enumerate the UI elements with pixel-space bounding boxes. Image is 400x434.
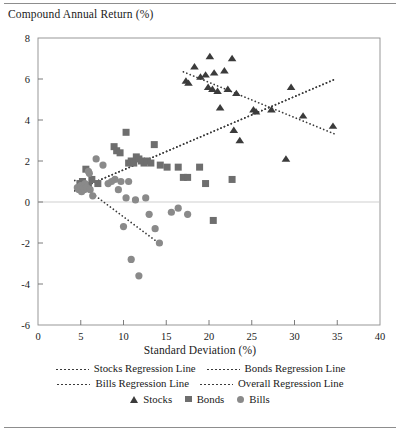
data-point-bonds	[94, 180, 101, 187]
svg-text:35: 35	[332, 331, 343, 342]
dotted-line-icon	[55, 367, 89, 370]
dotted-line-icon	[206, 367, 240, 370]
data-point-bonds	[210, 217, 217, 224]
data-point-stocks	[228, 55, 237, 61]
chart-legend: Stocks Regression Line Bonds Regression …	[0, 362, 400, 405]
dotted-line-icon	[56, 382, 90, 385]
x-axis-title: Standard Deviation (%)	[0, 344, 400, 356]
legend-label: Bonds	[197, 393, 225, 405]
data-point-stocks	[229, 127, 238, 133]
data-point-bills	[87, 186, 94, 193]
legend-label: Bills Regression Line	[95, 377, 189, 389]
data-point-bonds	[147, 160, 154, 167]
svg-text:20: 20	[204, 331, 215, 342]
data-point-bonds	[117, 149, 124, 156]
svg-text:2: 2	[25, 156, 30, 167]
data-point-bills	[132, 196, 139, 203]
data-point-bonds	[123, 129, 130, 136]
data-point-bonds	[229, 176, 236, 183]
svg-text:40: 40	[375, 331, 386, 342]
data-point-stocks	[329, 122, 338, 128]
svg-text:8: 8	[25, 33, 30, 44]
legend-label: Stocks	[143, 393, 172, 405]
legend-item-stocks-regression: Stocks Regression Line	[55, 362, 196, 374]
data-point-stocks	[232, 90, 241, 96]
legend-item-stocks: Stocks	[130, 393, 172, 405]
legend-label: Bonds Regression Line	[245, 362, 346, 374]
data-point-stocks	[190, 63, 199, 69]
legend-row-lines-1: Stocks Regression Line Bonds Regression …	[0, 362, 400, 374]
data-point-bills	[135, 272, 142, 279]
legend-label: Stocks Regression Line	[94, 362, 196, 374]
data-point-bills	[122, 194, 129, 201]
data-point-bonds	[157, 162, 164, 169]
triangle-up-icon	[130, 396, 138, 403]
svg-text:0: 0	[25, 197, 30, 208]
data-point-bills	[142, 194, 149, 201]
data-point-stocks	[287, 83, 296, 89]
data-point-bills	[168, 209, 175, 216]
data-point-bills	[146, 211, 153, 218]
data-point-stocks	[299, 112, 308, 118]
data-point-bonds	[202, 180, 209, 187]
svg-text:6: 6	[25, 74, 30, 85]
y-axis-ticks: -6-4-202468	[21, 33, 43, 331]
svg-text:-2: -2	[21, 238, 30, 249]
data-point-bonds	[88, 176, 95, 183]
data-point-stocks	[282, 155, 291, 161]
x-axis-ticks: 0510152025303540	[35, 320, 385, 342]
square-icon	[185, 396, 192, 403]
data-point-bonds	[196, 164, 203, 171]
data-point-bills	[156, 239, 163, 246]
data-point-bills	[117, 178, 124, 185]
data-point-stocks	[201, 71, 210, 77]
legend-item-bills: Bills	[237, 393, 269, 405]
data-point-bonds	[151, 141, 158, 148]
data-point-stocks	[206, 53, 215, 59]
svg-text:5: 5	[78, 331, 83, 342]
svg-text:30: 30	[289, 331, 300, 342]
data-point-bonds	[164, 164, 171, 171]
legend-item-bills-regression: Bills Regression Line	[56, 377, 189, 389]
data-point-bills	[93, 155, 100, 162]
data-point-bills	[99, 162, 106, 169]
data-point-stocks	[216, 104, 225, 110]
legend-label: Overall Regression Line	[238, 377, 344, 389]
legend-label: Bills	[249, 393, 269, 405]
data-point-bills	[152, 225, 159, 232]
data-point-stocks	[235, 137, 244, 143]
data-point-bills	[128, 256, 135, 263]
svg-text:-4: -4	[21, 279, 30, 290]
data-point-bonds	[184, 174, 191, 181]
chart-figure: Compound Annual Return (%) -6-4-202468 0…	[0, 0, 400, 434]
circle-icon	[237, 396, 244, 403]
data-point-stocks	[220, 67, 229, 73]
legend-item-bonds-regression: Bonds Regression Line	[206, 362, 346, 374]
regression-lines	[75, 72, 336, 246]
svg-text:15: 15	[161, 331, 172, 342]
data-point-stocks	[210, 69, 219, 75]
data-point-bonds	[175, 164, 182, 171]
legend-item-bonds: Bonds	[185, 393, 224, 405]
data-point-bills	[115, 186, 122, 193]
data-points	[74, 53, 338, 280]
svg-text:-6: -6	[21, 320, 30, 331]
svg-text:25: 25	[247, 331, 258, 342]
svg-text:4: 4	[25, 115, 31, 126]
data-point-bills	[175, 205, 182, 212]
data-point-bills	[120, 223, 127, 230]
legend-item-overall-regression: Overall Regression Line	[199, 377, 344, 389]
data-point-bills	[184, 211, 191, 218]
bottom-divider-rule	[4, 427, 396, 428]
svg-text:0: 0	[35, 331, 40, 342]
svg-text:10: 10	[118, 331, 129, 342]
dotted-line-icon	[199, 382, 233, 385]
legend-row-markers: Stocks Bonds Bills	[0, 393, 400, 405]
scatter-plot: -6-4-202468 0510152025303540	[0, 0, 400, 345]
data-point-bills	[89, 192, 96, 199]
legend-row-lines-2: Bills Regression Line Overall Regression…	[0, 377, 400, 389]
data-point-bills	[86, 170, 93, 177]
data-point-bills	[125, 178, 132, 185]
